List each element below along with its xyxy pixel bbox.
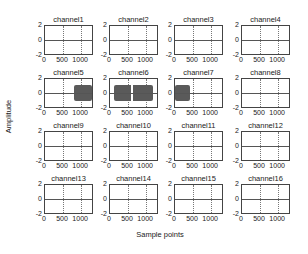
- x-tick-label: 1000: [68, 215, 92, 222]
- x-tick-label: 1000: [198, 109, 222, 116]
- subplot-title: channel5: [39, 68, 99, 77]
- y-tick-label: 2: [97, 21, 107, 28]
- y-axis-label: Amplitude: [4, 87, 13, 147]
- signal-line: [45, 93, 92, 94]
- y-tick-label: 0: [32, 142, 42, 149]
- subplot-title: channel15: [169, 174, 229, 183]
- subplot-title: channel7: [169, 68, 229, 77]
- subplot-axes: [174, 25, 223, 55]
- subplot-title: channel13: [39, 174, 99, 183]
- subplot-title: channel14: [104, 174, 164, 183]
- y-tick-label: 2: [32, 74, 42, 81]
- x-tick-label: 1000: [265, 162, 289, 169]
- subplot-title: channel6: [104, 68, 164, 77]
- y-tick-label: 0: [97, 89, 107, 96]
- x-tick-label: 1000: [133, 56, 157, 63]
- subplot-axes: [44, 25, 93, 55]
- x-tick-label: 1000: [265, 56, 289, 63]
- subplot-axes: [174, 184, 223, 214]
- y-tick-label: 2: [162, 180, 172, 187]
- subplot-axes: [44, 131, 93, 161]
- y-tick-label: 0: [162, 142, 172, 149]
- y-tick-label: 0: [97, 195, 107, 202]
- subplot-axes: [241, 184, 290, 214]
- y-tick-label: 2: [162, 21, 172, 28]
- subplot-axes: [109, 184, 158, 214]
- y-tick-label: 0: [97, 36, 107, 43]
- x-tick-label: 1000: [198, 215, 222, 222]
- y-tick-label: 2: [97, 127, 107, 134]
- x-tick-label: 1000: [133, 162, 157, 169]
- subplot-axes: [174, 78, 223, 108]
- subplot-axes: [109, 25, 158, 55]
- signal-line: [175, 93, 222, 94]
- x-tick-label: 1000: [265, 109, 289, 116]
- y-tick-label: 0: [229, 89, 239, 96]
- x-tick-label: 1000: [198, 56, 222, 63]
- signal-line: [242, 146, 289, 147]
- y-tick-label: 2: [162, 127, 172, 134]
- y-tick-label: 2: [32, 21, 42, 28]
- signal-line: [110, 146, 157, 147]
- y-tick-label: 2: [229, 74, 239, 81]
- subplot-title: channel10: [104, 121, 164, 130]
- y-tick-label: 2: [32, 180, 42, 187]
- y-tick-label: 0: [162, 89, 172, 96]
- y-tick-label: 2: [97, 74, 107, 81]
- x-tick-label: 1000: [68, 56, 92, 63]
- subplot-title: channel12: [236, 121, 296, 130]
- signal-line: [110, 199, 157, 200]
- y-tick-label: 0: [97, 142, 107, 149]
- subplot-axes: [241, 131, 290, 161]
- x-tick-label: 1000: [68, 109, 92, 116]
- signal-line: [110, 40, 157, 41]
- y-tick-label: 0: [32, 36, 42, 43]
- signal-line: [175, 146, 222, 147]
- x-tick-label: 1000: [198, 162, 222, 169]
- x-tick-label: 1000: [133, 109, 157, 116]
- figure: channel120-205001000channel220-205001000…: [0, 0, 308, 254]
- subplot-axes: [241, 25, 290, 55]
- subplot-title: channel11: [169, 121, 229, 130]
- signal-line: [45, 40, 92, 41]
- subplot-title: channel3: [169, 15, 229, 24]
- signal-line: [175, 199, 222, 200]
- y-tick-label: 2: [229, 21, 239, 28]
- signal-line: [45, 199, 92, 200]
- subplot-title: channel2: [104, 15, 164, 24]
- signal-line: [242, 40, 289, 41]
- subplot-title: channel16: [236, 174, 296, 183]
- y-tick-label: 0: [229, 142, 239, 149]
- y-tick-label: 2: [97, 180, 107, 187]
- subplot-title: channel9: [39, 121, 99, 130]
- y-tick-label: 0: [229, 36, 239, 43]
- y-tick-label: 0: [32, 195, 42, 202]
- y-tick-label: 2: [229, 127, 239, 134]
- subplot-axes: [109, 131, 158, 161]
- subplot-title: channel8: [236, 68, 296, 77]
- x-tick-label: 1000: [133, 215, 157, 222]
- y-tick-label: 2: [229, 180, 239, 187]
- subplot-axes: [44, 78, 93, 108]
- y-tick-label: 0: [162, 36, 172, 43]
- y-tick-label: 0: [229, 195, 239, 202]
- subplot-title: channel4: [236, 15, 296, 24]
- x-axis-label: Sample points: [120, 230, 200, 239]
- subplot-axes: [44, 184, 93, 214]
- subplot-axes: [241, 78, 290, 108]
- signal-line: [175, 40, 222, 41]
- y-tick-label: 0: [162, 195, 172, 202]
- subplot-title: channel1: [39, 15, 99, 24]
- signal-line: [45, 146, 92, 147]
- y-tick-label: 2: [162, 74, 172, 81]
- signal-line: [242, 199, 289, 200]
- signal-line: [110, 93, 157, 94]
- signal-line: [242, 93, 289, 94]
- subplot-axes: [174, 131, 223, 161]
- x-tick-label: 1000: [68, 162, 92, 169]
- y-tick-label: 2: [32, 127, 42, 134]
- y-tick-label: 0: [32, 89, 42, 96]
- x-tick-label: 1000: [265, 215, 289, 222]
- subplot-axes: [109, 78, 158, 108]
